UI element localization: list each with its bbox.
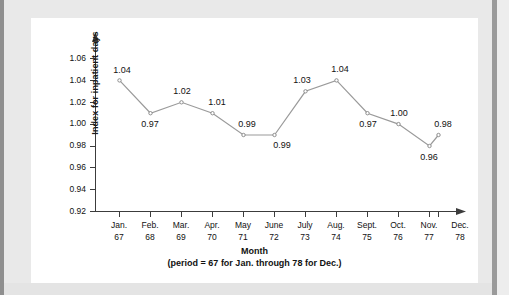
data-point-label-july: 1.03 xyxy=(282,75,322,85)
y-tick-label: 1.02 xyxy=(52,97,86,107)
x-tick-month: Jan. xyxy=(111,220,127,230)
x-axis-subtitle: (period = 67 for Jan. through 78 for Dec… xyxy=(31,258,478,268)
data-point-marker xyxy=(335,79,338,82)
x-axis-title: Month xyxy=(31,246,478,256)
data-point-label-sept: 0.97 xyxy=(348,119,388,129)
page-right-margin xyxy=(497,0,509,295)
x-tick-label-dec: Dec. 78 xyxy=(437,220,483,243)
x-tick-year: 70 xyxy=(207,232,216,242)
data-point-label-aug: 1.04 xyxy=(320,64,360,74)
data-point-marker xyxy=(273,133,276,136)
y-tick-label: 0.92 xyxy=(52,206,86,216)
data-point-marker xyxy=(180,101,183,104)
page-left-edge-strip xyxy=(0,0,4,295)
x-tick-month: Apr. xyxy=(204,220,219,230)
line-chart: Index for inpatient days xyxy=(31,18,478,283)
data-point-label-nov: 0.96 xyxy=(409,152,449,162)
data-point-marker xyxy=(149,112,152,115)
data-point-marker xyxy=(211,112,214,115)
y-tick-label: 1.06 xyxy=(52,53,86,63)
x-tick-month: Dec. xyxy=(451,220,468,230)
y-tick-label: 1.00 xyxy=(52,118,86,128)
data-point-label-june: 0.99 xyxy=(262,140,302,150)
x-tick-year: 74 xyxy=(331,232,340,242)
x-tick-year: 75 xyxy=(362,232,371,242)
x-tick-month: May xyxy=(235,220,251,230)
x-axis-arrowhead xyxy=(456,208,466,215)
x-tick-month: June xyxy=(265,220,283,230)
data-point-label-mar: 1.02 xyxy=(162,86,202,96)
data-point-marker xyxy=(118,79,121,82)
data-point-marker xyxy=(437,133,440,136)
x-tick-year: 69 xyxy=(176,232,185,242)
x-tick-month: Oct. xyxy=(390,220,406,230)
x-tick-month: Nov. xyxy=(421,220,438,230)
data-point-label-oct: 1.00 xyxy=(379,108,419,118)
y-tick-label: 0.94 xyxy=(52,184,86,194)
y-tick-label: 1.04 xyxy=(52,75,86,85)
data-point-marker xyxy=(366,112,369,115)
data-point-marker xyxy=(428,144,431,147)
x-tick-month: Aug. xyxy=(327,220,345,230)
x-tick-year: 68 xyxy=(145,232,154,242)
x-tick-month: July xyxy=(297,220,312,230)
data-point-label-may: 0.99 xyxy=(227,119,267,129)
data-point-label-feb: 0.97 xyxy=(130,119,170,129)
x-tick-year: 73 xyxy=(300,232,309,242)
x-tick-year: 67 xyxy=(114,232,123,242)
x-tick-month: Feb. xyxy=(141,220,158,230)
x-tick-year: 72 xyxy=(269,232,278,242)
figure-page: Index for inpatient days xyxy=(0,0,509,295)
x-tick-month: Mar. xyxy=(173,220,190,230)
x-tick-year: 71 xyxy=(238,232,247,242)
x-tick-year: 76 xyxy=(393,232,402,242)
page-bottom-margin xyxy=(4,283,492,295)
data-point-label-apr: 1.01 xyxy=(197,97,237,107)
x-tick-month: Sept. xyxy=(357,220,377,230)
data-point-marker xyxy=(397,122,400,125)
data-point-marker xyxy=(304,90,307,93)
x-tick-year: 78 xyxy=(455,232,464,242)
x-tick-marks xyxy=(120,212,439,218)
y-tick-label: 0.96 xyxy=(52,162,86,172)
data-point-marker xyxy=(242,133,245,136)
x-tick-year: 77 xyxy=(424,232,433,242)
data-point-label-dec: 0.98 xyxy=(423,119,463,129)
data-point-label-jan: 1.04 xyxy=(102,65,142,75)
y-axis-title: Index for inpatient days xyxy=(90,3,100,163)
y-tick-label: 0.98 xyxy=(52,140,86,150)
chart-panel: Index for inpatient days xyxy=(31,18,478,283)
